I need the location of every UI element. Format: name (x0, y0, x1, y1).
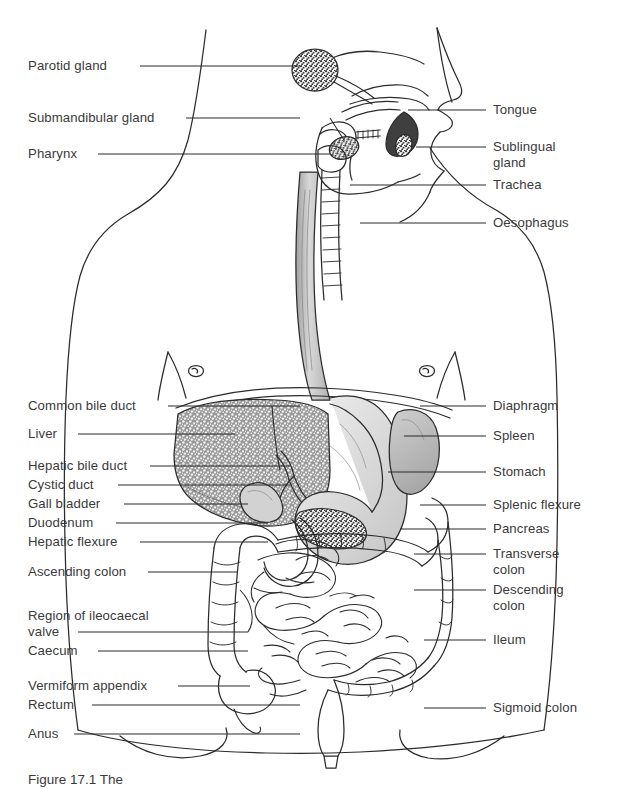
organ-label-trachea: Trachea (493, 177, 542, 193)
figure-caption: Figure 17.1 The (28, 772, 123, 789)
organ-label-rectum: Rectum (28, 697, 74, 713)
spleen (389, 410, 439, 495)
organ-label-gall-bladder: Gall bladder (28, 496, 100, 512)
organ-label-transverse: Transverse (493, 546, 559, 562)
organ-label-sigmoid-colon: Sigmoid colon (493, 700, 577, 716)
organ-label-vermiform-appendix: Vermiform appendix (28, 678, 147, 694)
organ-label-colon: colon (493, 562, 525, 578)
organ-label-cystic-duct: Cystic duct (28, 477, 94, 493)
organ-label-parotid-gland: Parotid gland (28, 58, 107, 74)
duodenum (264, 518, 318, 586)
organ-label-sublingual: Sublingual (493, 139, 556, 155)
organ-label-colon: colon (493, 598, 525, 614)
organ-label-valve: valve (28, 624, 59, 640)
organ-label-caecum: Caecum (28, 643, 78, 659)
organ-label-region-of-ileocaecal: Region of ileocaecal (28, 608, 149, 624)
organ-label-oesophagus: Oesophagus (493, 215, 569, 231)
organ-label-splenic-flexure: Splenic flexure (493, 497, 581, 513)
organ-label-spleen: Spleen (493, 428, 535, 444)
organ-label-hepatic-bile-duct: Hepatic bile duct (28, 458, 127, 474)
organ-label-liver: Liver (28, 426, 57, 442)
organ-label-gland: gland (493, 155, 526, 171)
sublingual-gland (396, 134, 413, 156)
organ-label-ascending-colon: Ascending colon (28, 564, 126, 580)
organ-label-duodenum: Duodenum (28, 515, 93, 531)
head-sagittal (316, 28, 462, 222)
organ-label-pharynx: Pharynx (28, 146, 77, 162)
organ-label-anus: Anus (28, 726, 58, 742)
organ-label-descending: Descending (493, 582, 564, 598)
organ-label-hepatic-flexure: Hepatic flexure (28, 534, 117, 550)
organ-label-stomach: Stomach (493, 464, 546, 480)
organ-label-submandibular-gland: Submandibular gland (28, 110, 155, 126)
organ-label-ileum: Ileum (493, 632, 526, 648)
digestive-system-figure: Parotid glandSubmandibular glandPharynxC… (0, 0, 623, 789)
organ-label-common-bile-duct: Common bile duct (28, 398, 136, 414)
organ-label-tongue: Tongue (493, 102, 537, 118)
parotid-gland (292, 49, 374, 104)
organ-label-diaphragm: Diaphragm (493, 398, 558, 414)
organ-label-pancreas: Pancreas (493, 521, 550, 537)
